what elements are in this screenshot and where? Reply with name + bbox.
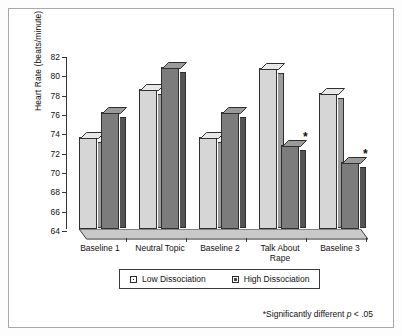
bar-side-face xyxy=(360,167,366,228)
bar-front-face xyxy=(341,162,359,229)
legend-label: Low Dissociation xyxy=(142,274,206,284)
y-tick-label: 70 xyxy=(36,169,60,177)
x-axis-label: Talk About Rape xyxy=(250,243,310,263)
bar-top-face xyxy=(102,107,120,113)
bar-side-face xyxy=(240,117,246,228)
bar-front-face xyxy=(79,137,97,229)
bar-top-face xyxy=(320,88,338,94)
x-axis-label: Neutral Topic xyxy=(130,243,190,253)
bar-top-face xyxy=(80,132,98,138)
legend-swatch-icon xyxy=(232,276,239,283)
y-tick-label: 82 xyxy=(36,53,60,61)
footnote-suffix: < .05 xyxy=(351,309,373,319)
y-axis-line xyxy=(66,57,67,229)
y-tick-mark xyxy=(62,134,67,135)
y-tick-mark xyxy=(62,57,67,58)
floor-slab-svg xyxy=(66,229,381,240)
y-tick-label: 68 xyxy=(36,188,60,196)
bar-front-face xyxy=(161,67,179,229)
bar-top-face xyxy=(200,132,218,138)
y-tick-label: 78 xyxy=(36,92,60,100)
bar-front-face xyxy=(101,112,119,229)
y-tick-mark xyxy=(62,96,67,97)
legend-swatch-icon xyxy=(130,276,137,283)
plot-area: Heart Rate (beats/minute) 64666870727476… xyxy=(66,55,381,230)
legend-item-high: High Dissociation xyxy=(232,274,310,284)
bar-top-face xyxy=(222,107,240,113)
bar-side-face xyxy=(300,150,306,228)
bar-front-face xyxy=(319,93,337,229)
bar-top-face xyxy=(140,84,158,90)
bar-front-face xyxy=(221,112,239,229)
x-tick-mark xyxy=(126,238,127,242)
y-tick-label: 80 xyxy=(36,72,60,80)
x-tick-mark xyxy=(306,238,307,242)
y-tick-mark xyxy=(62,192,67,193)
significance-asterisk: * xyxy=(363,149,368,159)
bar-side-face xyxy=(180,72,186,228)
legend-label: High Dissociation xyxy=(244,274,310,284)
legend-item-low: Low Dissociation xyxy=(130,274,206,284)
significance-footnote: *Significantly different p < .05 xyxy=(263,309,373,319)
y-tick-label: 74 xyxy=(36,130,60,138)
x-tick-mark xyxy=(366,238,367,242)
bar-front-face xyxy=(139,89,157,229)
significance-asterisk: * xyxy=(303,132,308,142)
y-tick-label: 66 xyxy=(36,208,60,216)
y-tick-mark xyxy=(62,76,67,77)
x-axis-label: Baseline 1 xyxy=(70,243,130,253)
chart-figure: Heart Rate (beats/minute) 64666870727476… xyxy=(0,0,402,336)
bar-top-face xyxy=(162,62,180,68)
bar-side-face xyxy=(120,117,126,228)
bar-front-face xyxy=(281,145,299,229)
figure-frame: Heart Rate (beats/minute) 64666870727476… xyxy=(8,8,394,328)
y-tick-mark xyxy=(62,154,67,155)
chart-legend: Low DissociationHigh Dissociation xyxy=(119,269,320,289)
footnote-prefix: *Significantly different xyxy=(263,309,347,319)
y-tick-label: 76 xyxy=(36,111,60,119)
y-tick-mark xyxy=(62,115,67,116)
y-tick-mark xyxy=(62,173,67,174)
x-axis-label: Baseline 2 xyxy=(190,243,250,253)
bar-top-face xyxy=(282,140,300,146)
bar-front-face xyxy=(259,68,277,229)
y-tick-label: 64 xyxy=(36,227,60,235)
bar-front-face xyxy=(199,137,217,229)
y-tick-mark xyxy=(62,212,67,213)
bar-top-face xyxy=(260,63,278,69)
x-tick-mark xyxy=(186,238,187,242)
bar-top-face xyxy=(342,157,360,163)
chart-floor-3d xyxy=(66,229,381,241)
x-tick-mark xyxy=(246,238,247,242)
x-axis-label: Baseline 3 xyxy=(310,243,370,253)
y-tick-label: 72 xyxy=(36,150,60,158)
